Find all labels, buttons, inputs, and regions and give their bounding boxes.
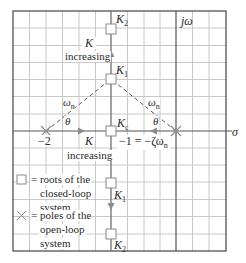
lower-k2-k: K	[114, 238, 122, 252]
legend-cross-line2: open-loop	[39, 224, 86, 235]
tick-minus-one: −1 = −ζωn	[117, 135, 170, 150]
omega-left: ω	[63, 96, 71, 108]
omega-left-sub: n	[71, 102, 75, 111]
tick-minus-two: −2	[36, 135, 53, 147]
imag-axis-label: jω	[181, 15, 193, 27]
legend-square-line1: = roots of the	[30, 174, 91, 185]
arrow-down-icon	[108, 203, 115, 210]
legend-cross-line1: = poles of the	[30, 210, 92, 221]
upper-k2-label: K2	[116, 13, 128, 28]
omega-n-right-label: ωn	[148, 97, 160, 111]
k-increasing-top-k: K	[82, 37, 96, 49]
upper-k1-sub: 1	[124, 70, 128, 79]
theta-left-label: θ	[64, 116, 71, 127]
legend-cross-line3: system	[39, 238, 72, 249]
root-square-icon	[106, 24, 116, 34]
breakaway-kc-label: Kc	[117, 117, 129, 132]
root-locus-diagram: jω σ K2 K1 K increasing ωn ωn θ θ Kc −2 …	[0, 0, 246, 263]
tick-minus-one-text: −1 = −ζω	[119, 134, 164, 148]
k-increasing-real-text: increasing	[66, 150, 113, 161]
legend-square-icon	[17, 175, 26, 184]
upper-k1-label: K1	[116, 64, 128, 79]
k-increasing-top-text: increasing	[64, 51, 111, 62]
upper-k2-k: K	[116, 12, 124, 26]
root-square-icon	[106, 74, 116, 84]
tick-minus-one-sub: n	[164, 141, 168, 150]
lower-k2-sub: 2	[122, 245, 126, 254]
theta-right-label: θ	[152, 116, 159, 127]
root-square-icon	[106, 178, 116, 188]
legend-cross-icon	[17, 211, 26, 220]
omega-right-sub: n	[156, 102, 160, 111]
lower-k1-label: K1	[114, 189, 126, 204]
root-square-icon	[106, 126, 116, 136]
omega-right: ω	[148, 96, 156, 108]
real-axis-label: σ	[232, 126, 238, 138]
lower-k1-k: K	[114, 188, 122, 202]
upper-k2-sub: 2	[124, 19, 128, 28]
k-increasing-real-k: K	[83, 135, 95, 147]
kc-sub: c	[125, 123, 129, 132]
upper-k1-k: K	[116, 63, 124, 77]
lower-k1-sub: 1	[122, 195, 126, 204]
omega-n-left-label: ωn	[63, 97, 75, 111]
lower-k2-label: K2	[114, 239, 126, 254]
kc-k: K	[117, 116, 125, 130]
arrow-right-icon	[78, 128, 85, 135]
legend-square-line2: closed-loop	[39, 188, 92, 199]
